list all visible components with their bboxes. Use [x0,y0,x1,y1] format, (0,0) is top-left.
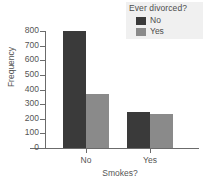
bar-yes-no [127,112,150,148]
bar-no-no [63,31,86,148]
y-tick-mark [40,148,45,149]
bar-no-yes [86,94,109,148]
x-tick-label: Yes [130,155,170,165]
y-tick-label: 300 [13,99,39,108]
plot-area [45,30,195,148]
x-axis-line [30,148,199,149]
bar-chart: Ever divorced? No Yes 800700600500400300… [0,0,203,188]
legend-entry-no: No [129,16,201,25]
legend-label-no: No [150,16,161,25]
x-tick-mark [86,148,87,153]
legend-title: Ever divorced? [129,3,201,14]
x-tick-label: No [66,155,106,165]
y-tick-label: 600 [13,55,39,64]
y-tick-label: 700 [13,41,39,50]
y-tick-label-wrap: 0 [10,143,39,152]
y-tick-label: 100 [13,128,39,137]
y-tick-label: 0 [13,143,39,152]
y-tick-label: 400 [13,85,39,94]
y-tick-label: 800 [13,26,39,35]
x-tick-mark [150,148,151,153]
x-axis-title: Smokes? [55,168,185,178]
y-axis-title: Frequency [6,31,16,103]
y-tick-label-wrap: 200 [10,114,39,123]
y-tick-label-wrap: 100 [10,128,39,137]
y-tick-label: 500 [13,70,39,79]
bar-yes-yes [150,114,173,149]
y-tick-label: 200 [13,114,39,123]
legend-swatch-no [136,17,146,25]
